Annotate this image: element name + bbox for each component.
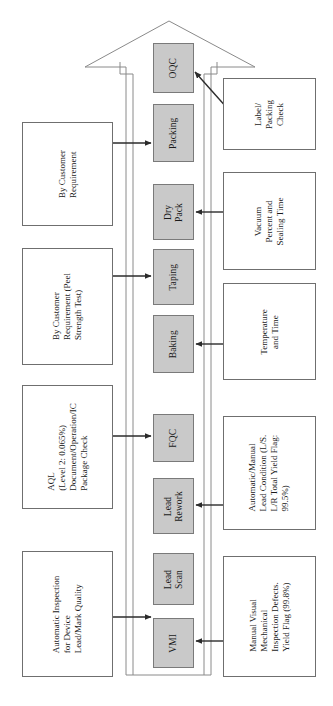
process-label-fqc: FQC bbox=[168, 429, 179, 448]
annotation-text-manual-visual: Manual VisualMechanicalInspection Defect… bbox=[247, 582, 291, 651]
process-label-baking: Baking bbox=[168, 330, 179, 358]
process-label-vmi: VMI bbox=[168, 634, 179, 653]
annotation-box-aql[interactable]: AQL(Level 2: 0.065%)Document/Operation/I… bbox=[22, 385, 113, 509]
process-label-dry-pack: DryPack bbox=[163, 203, 184, 222]
annotation-text-customer-requirement: By CustomerRequirement bbox=[56, 150, 78, 198]
annotation-text-automatic-inspection: Automatic Inspectionfor DeviceLead/Mark … bbox=[51, 575, 84, 653]
process-box-lead-rework[interactable]: LeadRework bbox=[153, 478, 194, 534]
process-box-oqc[interactable]: OQC bbox=[153, 43, 194, 93]
inner-rail-left bbox=[120, 62, 133, 675]
annotation-box-label-packing-check[interactable]: Label/PackingCheck bbox=[223, 78, 316, 150]
annotation-box-peel-strength[interactable]: By CustomerRequirement (PeelStrength Tes… bbox=[22, 248, 113, 365]
annotation-text-peel-strength: By CustomerRequirement (PeelStrength Tes… bbox=[51, 273, 84, 340]
annotation-text-label-packing-check: Label/PackingCheck bbox=[253, 100, 286, 129]
process-label-packing: Packing bbox=[168, 117, 179, 148]
annotation-box-temperature-time[interactable]: Temperatureand Time bbox=[223, 283, 316, 380]
annotation-box-vacuum-sealing[interactable]: VacuumPercent andSealing Time bbox=[223, 172, 316, 270]
process-box-lead-scan[interactable]: LeadScan bbox=[153, 553, 194, 605]
process-box-dry-pack[interactable]: DryPack bbox=[153, 184, 194, 240]
annotation-text-vacuum-sealing: VacuumPercent andSealing Time bbox=[253, 197, 286, 245]
annotation-box-customer-requirement[interactable]: By CustomerRequirement bbox=[22, 122, 113, 226]
annotation-box-manual-visual[interactable]: Manual VisualMechanicalInspection Defect… bbox=[223, 556, 316, 677]
inner-rail-right bbox=[204, 62, 217, 675]
process-box-baking[interactable]: Baking bbox=[153, 315, 194, 373]
process-label-taping: Taping bbox=[168, 264, 179, 291]
process-label-oqc: OQC bbox=[168, 58, 179, 78]
process-box-vmi[interactable]: VMI bbox=[153, 618, 194, 668]
process-label-lead-scan: LeadScan bbox=[163, 569, 184, 588]
annotation-text-aql: AQL(Level 2: 0.065%)Document/Operation/I… bbox=[45, 403, 89, 490]
annotation-text-temperature-time: Temperatureand Time bbox=[259, 309, 281, 354]
annotation-box-automatic-inspection[interactable]: Automatic Inspectionfor DeviceLead/Mark … bbox=[22, 551, 113, 677]
process-box-taping[interactable]: Taping bbox=[153, 249, 194, 305]
process-box-fqc[interactable]: FQC bbox=[153, 414, 194, 462]
process-box-packing[interactable]: Packing bbox=[153, 104, 194, 162]
process-label-lead-rework: LeadRework bbox=[163, 491, 184, 522]
annotation-text-lead-condition: Automatic/ManualLead Condition (L/S.L/R … bbox=[248, 435, 292, 512]
annotation-box-lead-condition[interactable]: Automatic/ManualLead Condition (L/S.L/R … bbox=[223, 416, 316, 530]
diagram-canvas: OQC Packing DryPack Taping Baking FQC Le… bbox=[0, 0, 333, 706]
